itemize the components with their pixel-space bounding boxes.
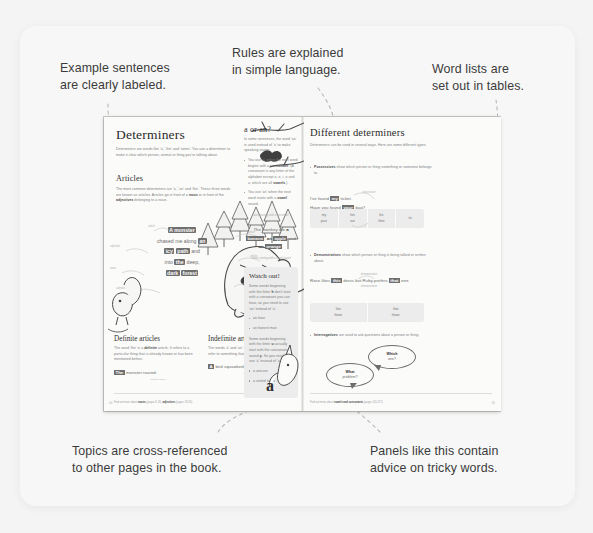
example-line-4: into the deep, — [130, 257, 234, 268]
example-text: Rose likes — [310, 278, 331, 283]
example-line-2: chased me along an — [130, 236, 234, 247]
caption-word-lists: Word lists are set out in tables. — [432, 61, 524, 95]
demonstratives-bullet: Demonstratives show which person or thin… — [310, 253, 432, 264]
possessives-table: my your her our his their its — [310, 209, 424, 228]
vowel-bold: vowel — [277, 196, 287, 200]
example-text: I've found — [310, 196, 330, 201]
cell-word: those — [368, 313, 425, 319]
interrogatives-text: are used to ask questions about a person… — [338, 333, 419, 337]
highlight-noun-path: path — [176, 248, 190, 254]
cell-word: these — [310, 313, 367, 319]
bubble-rest-problem: problem? — [343, 375, 358, 380]
right-page-footnote: Find out more about vowels and consonant… — [310, 401, 383, 404]
right-page-footer-rule — [310, 393, 492, 394]
example-text: one. — [400, 278, 410, 283]
left-page-title: Determiners — [116, 127, 185, 143]
definite-heading: Definite articles — [114, 335, 202, 343]
footnote-post: (pages 18-20). — [175, 401, 193, 404]
watch-out-text-2: Some words beginning with the letter u a… — [249, 337, 293, 365]
demonstratives-table: this these that those — [310, 303, 424, 322]
highlight-adjective-dark: dark — [166, 270, 180, 276]
a-or-an-heading: a or an? — [244, 125, 298, 134]
example-text: deep, — [185, 259, 199, 265]
possessive-example-1: I've found my ticket. — [310, 194, 428, 203]
bullet-text: .) — [285, 181, 287, 185]
highlight-that: that — [389, 278, 400, 283]
screenshot-root: Example sentences are clearly labeled. R… — [0, 0, 593, 533]
noun-bold: noun — [189, 193, 198, 197]
right-page-intro: Determiners can be used in several ways.… — [310, 143, 428, 149]
adjectives-bold: adjectives — [116, 198, 133, 202]
definite-example-rest: monster roared. — [125, 370, 157, 375]
right-page-title: Different determiners — [310, 127, 405, 138]
watch-out-panel: Watch out! Some words beginning with the… — [244, 267, 298, 398]
articles-text-3: belonging to a noun. — [133, 198, 167, 202]
monkey-example: The monkey ate a banana, an apple and an… — [244, 226, 298, 251]
caption-line: to other pages in the book. — [72, 460, 228, 477]
watch-out-body: Some words beginning with the letter h d… — [244, 280, 298, 384]
table-cell: her our — [339, 209, 368, 228]
consonant-bold: consonant — [270, 164, 288, 168]
watch-bullet-an-hour: an hour — [249, 316, 293, 322]
highlight-this: this — [331, 278, 342, 283]
articles-body: The most common determiners are 'a', 'an… — [116, 187, 234, 204]
footnote-mid: (pages 8-13), — [146, 401, 163, 404]
definite-example: The monster roared. — [114, 370, 202, 375]
a-or-an-panel: a or an? In some sentences, the word 'an… — [244, 125, 298, 260]
left-page-footnote: Find out more about nouns (pages 8-13), … — [114, 401, 193, 404]
example-text: ticket. — [339, 196, 352, 201]
book-gutter — [301, 117, 304, 411]
watch-bullet-an-honest-man: an honest man — [249, 326, 293, 332]
footnote-pre: Find out more about — [114, 401, 138, 404]
watch-out-text-1: Some words beginning with the letter h d… — [249, 284, 293, 312]
demonstrative-note-2: demonstrative — [310, 285, 428, 288]
table-cell: my your — [310, 209, 339, 228]
watch-bullet-a-unicorn: a unicorn — [249, 369, 293, 375]
example-text: into — [164, 259, 174, 265]
highlight-adjective-icy: icy — [164, 248, 174, 254]
article-an-2: an — [258, 244, 263, 249]
cell-word: their — [368, 219, 396, 225]
possessives-bold: Possessives — [314, 165, 336, 169]
caption-line: Rules are explained — [232, 45, 343, 62]
consonant-note: word starting with a consonant — [244, 214, 298, 217]
page-number-right: 45 — [492, 401, 495, 405]
example-text: and — [287, 236, 296, 241]
cell-word: our — [339, 219, 367, 225]
page-number-left: 44 — [109, 401, 112, 405]
table-cell: his their — [368, 209, 397, 228]
cell-word: your — [310, 219, 338, 225]
caption-panels-advice: Panels like this contain advice on trick… — [370, 443, 498, 477]
caption-line: in simple language. — [232, 62, 343, 79]
footnote-pre: Find out more about — [310, 401, 334, 404]
example-text: chased me along — [157, 238, 198, 244]
left-page-intro: Determiners are words like 'a', 'the' an… — [116, 147, 234, 158]
a-or-an-intro: In some sentences, the word 'an' is used… — [244, 137, 298, 154]
possessives-bullet: Possessives show which person or thing s… — [310, 165, 432, 176]
demonstratives-examples: demonstrative Rose likes this dress but … — [310, 273, 428, 288]
interrogatives-bullet: Interrogatives are used to ask questions… — [310, 333, 432, 339]
table-cell: this these — [310, 303, 368, 322]
vowel-note: words starting with a vowel sound — [244, 257, 298, 260]
watch-out-heading: Watch out! — [244, 267, 298, 280]
highlight-my: my — [330, 196, 339, 201]
cell-word: its — [396, 216, 424, 222]
caption-line: Topics are cross-referenced — [72, 443, 228, 460]
highlight-the: The — [114, 370, 125, 375]
caption-line: advice on tricky words. — [370, 460, 498, 477]
definite-articles-section: Definite articles The word 'the' is a de… — [114, 335, 202, 381]
bullet-text: sound. — [248, 202, 259, 206]
footnote-post: (pages 116-117). — [363, 401, 383, 404]
caption-line: Panels like this contain — [370, 443, 498, 460]
table-cell: its — [396, 212, 424, 226]
caption-line: Word lists are — [432, 61, 524, 78]
indefinite-example-rest: bird squawked. — [214, 364, 245, 369]
watch-bullet-a-united-team: a united team — [249, 379, 293, 385]
highlight-article-a-monster: A monster — [168, 227, 196, 233]
example-line-5: dark forest — [130, 268, 234, 279]
example-line-3: icy path and — [130, 246, 234, 257]
articles-heading: Articles — [116, 174, 143, 183]
demonstratives-bold: Demonstratives — [314, 253, 341, 257]
highlight-banana: banana — [246, 236, 264, 241]
table-cell: that those — [368, 303, 425, 322]
